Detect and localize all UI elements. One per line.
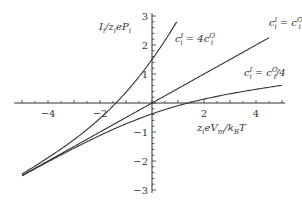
y-tick-label: 1 <box>142 69 148 80</box>
x-axis-label: zieVm/kBT <box>196 122 247 136</box>
annotation-ratio-1: cIi = cOi <box>269 16 302 31</box>
x-tick-label: 2 <box>201 108 207 119</box>
annotation-ratio-4: cIi = 4cOi <box>175 32 215 47</box>
x-tick-label: 4 <box>253 108 259 119</box>
ghk-current-chart: −4−224−3−2−1123 Ii/ziePi zieVm/kBT cIi =… <box>0 0 302 203</box>
y-axis-label: Ii/ziePi <box>98 21 131 35</box>
annotation-ratio-quarter: cIi = cOi/4 <box>244 66 286 81</box>
y-tick-label: −2 <box>133 156 148 167</box>
y-tick-label: −3 <box>133 185 148 196</box>
axes <box>14 13 285 193</box>
x-tick-label: −4 <box>41 108 56 119</box>
y-tick-label: 3 <box>142 11 148 22</box>
y-tick-label: 2 <box>142 40 148 51</box>
y-tick-label: −1 <box>133 127 148 138</box>
